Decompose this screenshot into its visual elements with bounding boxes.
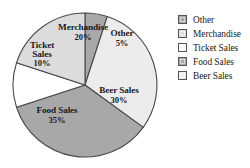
legend-item-label: Other (193, 15, 214, 25)
pie-slice-label: Food Sales35% (36, 106, 77, 125)
legend-item[interactable]: Merchandise (178, 28, 250, 39)
pie-chart-figure: Other5%Beer Sales30%Food Sales35%TicketS… (0, 0, 250, 168)
legend-item-label: Beer Sales (193, 71, 232, 81)
pie-slice-label: Beer Sales30% (99, 86, 138, 105)
pie-slice-label: Merchandise20% (58, 23, 108, 42)
legend-item[interactable]: Other (178, 14, 250, 25)
legend-item-label: Food Sales (193, 57, 234, 67)
pie-slice-label-value: 30% (99, 95, 138, 104)
pie-slice-label-value: 35% (36, 115, 77, 124)
legend-item[interactable]: Ticket Sales (178, 42, 250, 53)
legend-swatch-icon (178, 43, 187, 52)
legend-item-label: Merchandise (193, 29, 241, 39)
pie-plot-area: Other5%Beer Sales30%Food Sales35%TicketS… (0, 0, 172, 168)
legend-item-label: Ticket Sales (193, 43, 238, 53)
pie-slice-label: TicketSales10% (30, 41, 54, 69)
pie-slice-label-value: 5% (111, 38, 134, 47)
legend-item[interactable]: Beer Sales (178, 70, 250, 81)
legend-swatch-icon (178, 57, 187, 66)
pie-slice-label-value: 10% (30, 60, 54, 69)
legend-swatch-icon (178, 71, 187, 80)
pie-slice-label-value: 20% (58, 32, 108, 41)
pie-slice-label: Other5% (111, 29, 134, 48)
legend-swatch-icon (178, 29, 187, 38)
legend-swatch-icon (178, 15, 187, 24)
chart-legend: OtherMerchandiseTicket SalesFood SalesBe… (178, 14, 250, 81)
legend-item[interactable]: Food Sales (178, 56, 250, 67)
